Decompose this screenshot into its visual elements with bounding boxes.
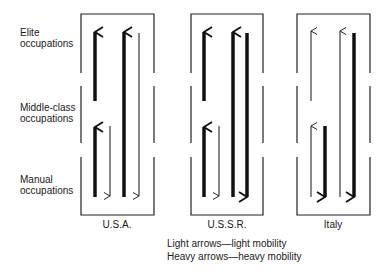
panel-italy-frame <box>297 14 370 215</box>
panel-label-italy: Italy <box>293 219 373 230</box>
mobility-diagram <box>0 0 387 273</box>
panel-usa-frame <box>81 14 154 215</box>
panel-label-ussr: U.S.S.R. <box>187 219 267 230</box>
panel-ussr-arrows <box>204 32 247 197</box>
panel-label-usa: U.S.A. <box>77 219 157 230</box>
panel-ussr-frame <box>191 14 263 215</box>
panel-italy-arrows <box>311 31 354 197</box>
legend-light: Light arrows—light mobility <box>167 237 302 250</box>
panel-usa-arrows <box>95 32 139 197</box>
legend-heavy: Heavy arrows—heavy mobility <box>167 250 302 263</box>
legend: Light arrows—light mobility Heavy arrows… <box>167 237 302 263</box>
